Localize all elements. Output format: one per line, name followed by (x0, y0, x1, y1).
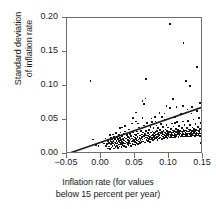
data-point (174, 122, 176, 124)
data-point (131, 123, 133, 125)
data-point (195, 123, 197, 125)
plot-area (66, 17, 202, 153)
data-point (180, 113, 182, 115)
data-point (154, 116, 156, 118)
data-point (182, 105, 184, 107)
data-point (196, 66, 198, 68)
data-point (121, 135, 123, 137)
data-point (138, 127, 140, 129)
data-point (187, 109, 189, 111)
data-point (98, 145, 100, 147)
data-point (164, 119, 166, 121)
x-axis-tick-label: 0.15 (182, 158, 216, 167)
data-point (132, 117, 134, 119)
data-point (161, 116, 163, 118)
data-point (174, 117, 176, 119)
data-point (149, 141, 151, 143)
data-point (142, 100, 144, 102)
y-axis-tick-label: 0.05 (40, 114, 58, 123)
data-point (199, 102, 201, 104)
y-axis-tick-label: 0.10 (40, 80, 58, 89)
y-axis-label-line-2: of inflation rate (23, 0, 34, 119)
data-point (118, 134, 120, 136)
data-point (142, 117, 144, 119)
data-point (123, 133, 125, 135)
data-point (120, 132, 122, 134)
data-point (109, 134, 111, 136)
data-point (144, 142, 146, 144)
y-axis-label-line-1: Standard deviation (13, 0, 24, 119)
data-point (172, 98, 174, 100)
data-point (90, 80, 92, 82)
data-point (191, 106, 193, 108)
x-axis-label-line-1: Inflation rate (for values (0, 177, 216, 189)
data-point (176, 121, 178, 123)
data-point (143, 125, 145, 127)
data-point (184, 124, 186, 126)
data-point (183, 42, 185, 44)
data-point (182, 121, 184, 123)
data-point (150, 126, 152, 128)
data-point (155, 121, 157, 123)
data-point (201, 129, 202, 131)
data-point (113, 148, 115, 150)
data-point (196, 110, 198, 112)
data-point (189, 85, 191, 87)
y-axis-label: Standard deviation of inflation rate (13, 0, 34, 119)
x-axis-label-line-2: below 15 percent per year) (0, 189, 216, 201)
data-point (159, 112, 161, 114)
y-axis-tick-label: 0.15 (40, 46, 58, 55)
data-point (200, 122, 202, 124)
data-point (153, 127, 155, 129)
data-point (105, 138, 107, 140)
data-point (185, 80, 187, 82)
data-point (115, 132, 117, 134)
data-point (169, 107, 171, 109)
y-axis-tick-label: 0.00 (40, 148, 58, 157)
x-axis-label: Inflation rate (for values below 15 perc… (0, 177, 216, 200)
data-point (176, 106, 178, 108)
data-point (121, 127, 123, 129)
data-point (191, 113, 193, 115)
data-point (124, 131, 126, 133)
data-point (198, 117, 200, 119)
data-point (137, 123, 139, 125)
data-point (178, 125, 180, 127)
data-point (92, 139, 94, 141)
data-point (143, 103, 145, 105)
data-point (151, 121, 153, 123)
data-point (162, 126, 164, 128)
data-point (135, 112, 137, 114)
data-point (128, 129, 130, 131)
data-point (187, 120, 189, 122)
y-axis-tick-label: 0.20 (40, 12, 58, 21)
data-point (189, 124, 191, 126)
data-point (145, 98, 147, 100)
data-point (124, 125, 126, 127)
data-point (145, 78, 147, 80)
data-point (173, 126, 175, 128)
data-point (151, 118, 153, 120)
data-point (146, 122, 148, 124)
data-point (119, 127, 121, 129)
data-point (166, 124, 168, 126)
data-point (171, 123, 173, 125)
data-point (160, 123, 162, 125)
data-point (109, 148, 111, 150)
data-point (201, 131, 202, 133)
data-point (201, 134, 202, 136)
scatter-chart-figure: Standard deviation of inflation rate 0.0… (0, 0, 216, 209)
data-point (164, 113, 166, 115)
data-point (169, 23, 171, 25)
data-point (166, 105, 168, 107)
data-point (130, 145, 132, 147)
data-point (200, 142, 202, 144)
data-point (148, 129, 150, 131)
data-point (167, 127, 169, 129)
data-point (193, 119, 195, 121)
